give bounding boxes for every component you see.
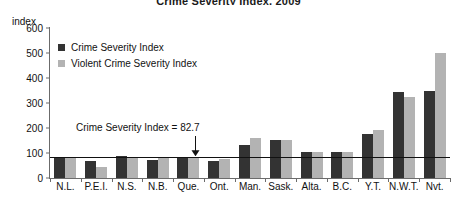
x-axis-tick-mark xyxy=(265,178,266,182)
y-axis-tick-label: 300 xyxy=(0,98,50,109)
x-axis-tick-label: Ont. xyxy=(210,181,229,192)
x-axis-tick-label: Que. xyxy=(178,181,200,192)
x-axis-tick-mark xyxy=(419,178,420,182)
x-axis-tick-label: Nvt. xyxy=(426,181,444,192)
bar[interactable] xyxy=(331,152,342,178)
legend-label-violent-crime-severity-index: Violent Crime Severity Index xyxy=(71,58,197,69)
bar[interactable] xyxy=(373,130,384,178)
legend-label-crime-severity-index: Crime Severity Index xyxy=(71,42,164,53)
x-axis-tick-mark xyxy=(358,178,359,182)
y-axis-tick-label: 200 xyxy=(0,123,50,134)
bar[interactable] xyxy=(96,167,107,178)
x-axis-tick-label: P.E.I. xyxy=(85,181,108,192)
x-axis-tick-mark xyxy=(112,178,113,182)
bar-group xyxy=(388,28,419,178)
crime-severity-index-chart: Crime Severity Index, 2009 index 0100200… xyxy=(0,0,457,216)
bar[interactable] xyxy=(342,152,353,178)
legend-item: Crime Severity Index xyxy=(58,42,197,53)
bar[interactable] xyxy=(424,91,435,178)
x-axis-tick-mark xyxy=(327,178,328,182)
x-axis-tick-label: Sask. xyxy=(268,181,293,192)
bar-group xyxy=(327,28,358,178)
legend-swatch-crime-severity-index xyxy=(58,44,65,51)
legend-swatch-violent-crime-severity-index xyxy=(58,60,65,67)
x-axis-tick-label: Alta. xyxy=(302,181,322,192)
chart-title: Crime Severity Index, 2009 xyxy=(156,0,301,5)
bar[interactable] xyxy=(312,152,323,178)
bar-group xyxy=(235,28,266,178)
x-axis-tick-label: N.B. xyxy=(148,181,167,192)
bar[interactable] xyxy=(393,92,404,178)
x-axis-tick-mark xyxy=(173,178,174,182)
bar[interactable] xyxy=(270,140,281,178)
x-axis-tick-mark xyxy=(296,178,297,182)
y-axis-tick-label: 0 xyxy=(0,173,50,184)
reference-line xyxy=(50,157,450,158)
x-axis-tick-label: N.L. xyxy=(56,181,74,192)
bar-group xyxy=(358,28,389,178)
x-axis-tick-label: B.C. xyxy=(333,181,352,192)
x-axis-tick-mark xyxy=(204,178,205,182)
bar[interactable] xyxy=(65,158,76,178)
bar[interactable] xyxy=(362,134,373,178)
bar[interactable] xyxy=(127,157,138,179)
y-axis-tick-label: 100 xyxy=(0,148,50,159)
bar-group xyxy=(419,28,450,178)
bar-group xyxy=(296,28,327,178)
bar[interactable] xyxy=(54,158,65,178)
bar[interactable] xyxy=(219,159,230,179)
x-axis-tick-mark xyxy=(142,178,143,182)
y-axis-tick-label: 600 xyxy=(0,23,50,34)
x-axis-line xyxy=(49,178,450,179)
x-axis-tick-label: N.S. xyxy=(117,181,136,192)
bar[interactable] xyxy=(177,158,188,179)
annotation-arrow-icon xyxy=(191,136,200,156)
reference-line-annotation: Crime Severity Index = 82.7 xyxy=(76,122,200,133)
bar[interactable] xyxy=(158,158,169,178)
legend-item: Violent Crime Severity Index xyxy=(58,58,197,69)
bar[interactable] xyxy=(116,156,127,179)
bar[interactable] xyxy=(208,161,219,178)
x-axis-tick-label: N.W.T. xyxy=(389,181,418,192)
bar[interactable] xyxy=(147,160,158,178)
bar[interactable] xyxy=(404,97,415,178)
bar-group xyxy=(265,28,296,178)
bar[interactable] xyxy=(239,145,250,178)
chart-legend: Crime Severity Index Violent Crime Sever… xyxy=(58,42,197,74)
y-axis-tick-label: 500 xyxy=(0,48,50,59)
chart-title-clipped: Crime Severity Index, 2009 xyxy=(0,0,457,5)
x-axis-tick-mark xyxy=(50,178,51,182)
y-axis-tick-label: 400 xyxy=(0,73,50,84)
bar-group xyxy=(204,28,235,178)
x-axis-tick-label: Man. xyxy=(239,181,261,192)
bar[interactable] xyxy=(188,158,199,179)
bar[interactable] xyxy=(281,140,292,178)
x-axis-tick-label: Y.T. xyxy=(365,181,381,192)
x-axis-tick-mark xyxy=(81,178,82,182)
x-axis-tick-mark xyxy=(235,178,236,182)
x-axis-tick-mark xyxy=(450,178,451,182)
bar[interactable] xyxy=(85,161,96,178)
bar[interactable] xyxy=(301,152,312,178)
bar[interactable] xyxy=(435,53,446,178)
